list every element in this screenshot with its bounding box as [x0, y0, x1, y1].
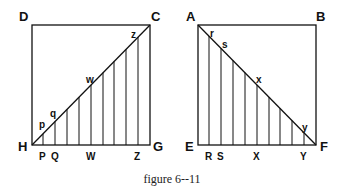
label-c: C	[151, 9, 161, 24]
label-q-lower: q	[50, 108, 56, 119]
label-q-upper: Q	[51, 151, 59, 162]
label-z-upper: Z	[134, 151, 140, 162]
label-p-lower: p	[39, 119, 45, 130]
label-w-lower: w	[85, 74, 94, 85]
figure-caption: figure 6--11	[143, 172, 200, 186]
right-square-figure: A B E F r s x y R S X Y	[185, 9, 328, 162]
label-f: F	[320, 139, 328, 154]
left-square-figure: D C H G p q w z P Q W Z	[18, 9, 163, 162]
label-h: H	[18, 139, 27, 154]
label-p-upper: P	[39, 151, 46, 162]
label-r-lower: r	[210, 28, 214, 39]
label-z-lower: z	[131, 29, 136, 40]
label-x-lower: x	[256, 74, 262, 85]
label-e: E	[185, 139, 194, 154]
label-s-upper: S	[217, 151, 224, 162]
label-b: B	[316, 9, 325, 24]
label-r-upper: R	[205, 151, 213, 162]
label-w-upper: W	[86, 151, 96, 162]
right-vertical-lines	[209, 36, 304, 145]
label-y-lower: y	[302, 122, 308, 133]
left-vertical-lines	[43, 37, 138, 145]
figure-6-11: D C H G p q w z P Q W Z A B E F r s x y …	[0, 0, 344, 188]
label-d: D	[19, 9, 28, 24]
label-y-upper: Y	[300, 151, 307, 162]
label-g: G	[153, 139, 163, 154]
label-a: A	[186, 9, 196, 24]
label-s-lower: s	[222, 39, 228, 50]
label-x-upper: X	[253, 151, 260, 162]
